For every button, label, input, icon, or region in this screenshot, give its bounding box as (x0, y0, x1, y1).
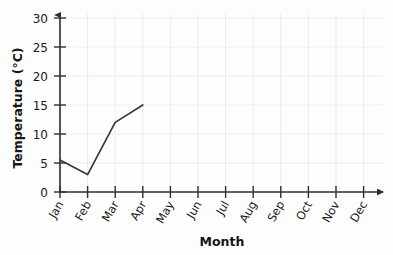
y-tick-label: 20 (33, 70, 48, 84)
y-tick-label: 0 (40, 186, 48, 200)
chart-canvas: 051015202530 JanFebMarAprMayJunJulAugSep… (0, 0, 393, 255)
y-axis-title: Temperature (°C) (10, 47, 25, 168)
y-tick-label: 15 (33, 99, 48, 113)
y-tick-label: 10 (33, 128, 48, 142)
y-tick-label: 30 (33, 12, 48, 26)
y-tick-label: 5 (40, 157, 48, 171)
line-chart: 051015202530 JanFebMarAprMayJunJulAugSep… (0, 0, 393, 255)
y-tick-label: 25 (33, 41, 48, 55)
x-axis-title: Month (200, 234, 245, 249)
